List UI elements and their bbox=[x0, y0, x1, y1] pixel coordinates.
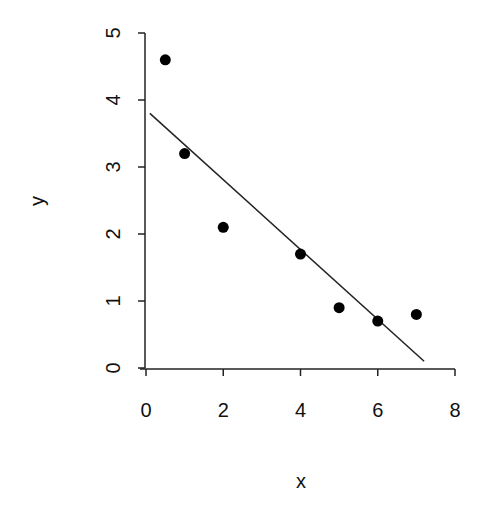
y-tick-label: 0 bbox=[102, 362, 124, 373]
x-tick-labels: 02468 bbox=[140, 399, 460, 421]
x-tick-label: 6 bbox=[372, 399, 383, 421]
data-point bbox=[160, 54, 171, 65]
data-point bbox=[372, 316, 383, 327]
fit-line bbox=[150, 113, 424, 361]
x-tick-label: 4 bbox=[295, 399, 306, 421]
y-tick-label: 1 bbox=[102, 295, 124, 306]
y-tick-label: 5 bbox=[102, 27, 124, 38]
x-tick-label: 0 bbox=[140, 399, 151, 421]
y-tick-labels: 012345 bbox=[102, 27, 124, 373]
x-tick-label: 2 bbox=[218, 399, 229, 421]
x-tick-label: 8 bbox=[449, 399, 460, 421]
data-point bbox=[295, 249, 306, 260]
data-point bbox=[179, 148, 190, 159]
y-tick-label: 2 bbox=[102, 228, 124, 239]
y-tick-label: 3 bbox=[102, 161, 124, 172]
axes bbox=[138, 33, 455, 376]
y-tick-label: 4 bbox=[102, 94, 124, 105]
data-points bbox=[160, 54, 422, 326]
data-point bbox=[411, 309, 422, 320]
x-axis-label: x bbox=[296, 470, 306, 492]
regression-line bbox=[150, 113, 424, 361]
data-point bbox=[334, 302, 345, 313]
y-axis-label: y bbox=[26, 196, 48, 206]
data-point bbox=[218, 222, 229, 233]
scatter-plot: 02468 012345 x y bbox=[0, 0, 487, 514]
